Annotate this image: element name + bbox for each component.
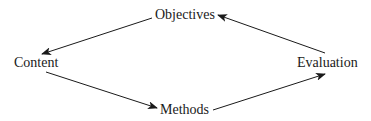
node-content: Content xyxy=(14,56,58,70)
arrow-content-to-methods xyxy=(46,72,157,108)
curriculum-cycle-diagram: Objectives Content Methods Evaluation xyxy=(0,0,371,121)
arrow-evaluation-to-objectives xyxy=(218,15,325,53)
node-evaluation: Evaluation xyxy=(297,56,358,70)
node-methods: Methods xyxy=(160,103,209,117)
arrow-objectives-to-content xyxy=(42,18,152,54)
arrow-methods-to-evaluation xyxy=(213,74,325,110)
node-objectives: Objectives xyxy=(155,8,215,22)
